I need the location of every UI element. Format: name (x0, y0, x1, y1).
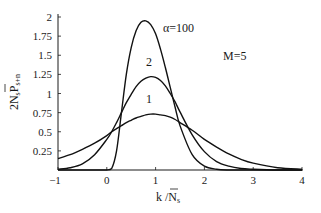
annotation-curve-1: 1 (146, 92, 152, 106)
x-axis-label: k /Ns (156, 190, 180, 205)
y-tick-label: 1.25 (33, 68, 53, 80)
annotation-alpha-100: α=100 (163, 21, 194, 35)
x-tick-label: 2 (202, 174, 208, 186)
x-tick-label: −1 (49, 174, 61, 186)
curve-alpha-100 (58, 21, 302, 170)
annotations: α=100 2 1 M=5 (146, 21, 246, 106)
y-axis: 0.250.50.7511.251.51.752 2NsPs+n (5, 11, 61, 170)
x-tick-label: 4 (299, 174, 305, 186)
y-tick-label: 0.5 (38, 126, 52, 138)
annotation-curve-2: 2 (146, 55, 152, 69)
y-tick-label: 0.75 (33, 107, 53, 119)
x-tick-label: 0 (104, 174, 110, 186)
plot-curves (58, 21, 302, 170)
y-tick-label: 1 (47, 88, 53, 100)
y-tick-label: 1.75 (33, 30, 53, 42)
x-axis: −101234 k /Ns (49, 167, 305, 205)
y-axis-label: 2NsPs+n (7, 74, 22, 110)
y-tick-label: 1.5 (38, 49, 52, 61)
x-tick-label: 1 (153, 174, 159, 186)
curve-1 (58, 114, 302, 169)
x-tick-label: 3 (250, 174, 256, 186)
y-tick-label: 2 (47, 11, 53, 23)
chart: 0.250.50.7511.251.51.752 2NsPs+n −101234… (0, 0, 321, 213)
annotation-m-5: M=5 (223, 49, 246, 63)
y-tick-label: 0.25 (33, 145, 53, 157)
